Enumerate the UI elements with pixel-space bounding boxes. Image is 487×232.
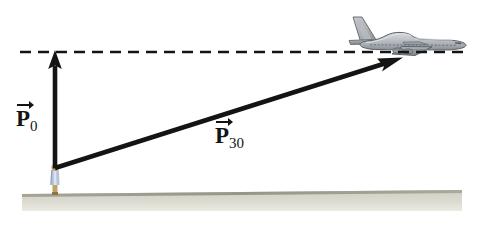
cockpit-window: [455, 43, 461, 44]
vector-label-p0: P0: [16, 101, 38, 130]
vector-label-p0-subscript: 0: [30, 118, 38, 134]
airplane-illustration: [349, 17, 466, 56]
vertical-momentum-vector: [48, 50, 62, 169]
person-shirt-highlight: [54, 170, 57, 185]
person-feet: [52, 192, 58, 195]
vector-label-p30-base: P: [215, 123, 229, 148]
vector-label-p30: P30: [215, 118, 244, 147]
window-band: [370, 45, 456, 46]
vector-label-p30-text: P30: [215, 124, 244, 147]
physics-figure: P0 P30: [0, 0, 487, 232]
vector-label-p30-subscript: 30: [229, 135, 244, 151]
ground-strip: [22, 190, 462, 211]
vector-label-p0-base: P: [16, 106, 30, 131]
vector-label-p0-text: P0: [16, 107, 38, 130]
vector-p30-shaft: [55, 62, 391, 169]
diagonal-momentum-vector: [55, 58, 403, 169]
figure-graphics: [0, 0, 487, 232]
